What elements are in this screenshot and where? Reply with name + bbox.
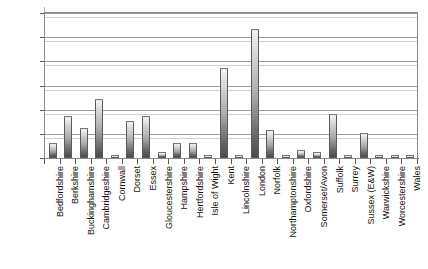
bar-slot [325, 13, 341, 158]
bar-slot [45, 13, 61, 158]
x-axis-tick-label: Northamptonshire [289, 166, 298, 238]
bar-chart: 0102030405060 BedfordshireBerkshireBucki… [0, 0, 428, 269]
bar-slot [185, 13, 201, 158]
bar-slot [340, 13, 356, 158]
x-axis-tick-mark [324, 159, 325, 164]
y-axis-tick-mark [40, 86, 44, 87]
x-axis-tick-mark [370, 159, 371, 164]
x-axis-tick-mark [417, 159, 418, 164]
x-axis-tick-label: Cambridgeshire [102, 166, 111, 230]
bar-slot [216, 13, 232, 158]
x-axis-tick-label: Wales [413, 166, 422, 191]
bar-slot [200, 13, 216, 158]
bar [329, 115, 337, 159]
x-axis-tick-mark [386, 159, 387, 164]
x-axis-tick-label: Sussex (E&W) [367, 166, 376, 225]
x-axis-tick-mark [184, 159, 185, 164]
x-axis-tick-mark [106, 159, 107, 164]
x-axis-tick-mark [91, 159, 92, 164]
bar-slot [61, 13, 77, 158]
bar-slot [247, 13, 263, 158]
bar-slot [387, 13, 403, 158]
bar-slot [371, 13, 387, 158]
x-axis-labels: BedfordshireBerkshireBuckinghamshireCamb… [0, 166, 428, 269]
bar [95, 100, 103, 158]
bar-slot [402, 13, 418, 158]
bar-series [45, 13, 417, 158]
x-axis-tick-mark [262, 159, 263, 164]
bar-slot [138, 13, 154, 158]
x-axis-tick-label: Hertfordshire [196, 166, 205, 218]
bar [49, 144, 57, 159]
x-axis-tick-mark [137, 159, 138, 164]
y-axis-tick-mark [40, 13, 44, 14]
x-axis-tick-label: Suffolk [336, 166, 345, 193]
bar [64, 117, 72, 158]
x-axis-tick-label: Berkshire [71, 166, 80, 204]
x-axis-tick-label: Hampshire [180, 166, 189, 210]
bar-slot [356, 13, 372, 158]
x-axis-tick-label: London [258, 166, 267, 196]
bar [111, 156, 119, 158]
y-axis-tick-mark [40, 37, 44, 38]
x-axis-tick-mark [215, 159, 216, 164]
x-axis-tick-mark [168, 159, 169, 164]
x-axis-tick-label: Lincolnshire [242, 166, 251, 214]
bar [266, 131, 274, 158]
bar-slot [123, 13, 139, 158]
bar-slot [92, 13, 108, 158]
x-axis-tick-label: Norfolk [273, 166, 282, 195]
x-axis-tick-label: Isle of Wight [211, 166, 220, 216]
bar [220, 69, 228, 158]
bar-slot [107, 13, 123, 158]
x-axis-tick-mark [75, 159, 76, 164]
x-axis-tick-mark [153, 159, 154, 164]
x-axis-tick-label: Cornwall [118, 166, 127, 201]
x-axis-tick-label: Dorset [133, 166, 142, 193]
bar [344, 156, 352, 158]
bar [158, 153, 166, 158]
x-axis-tick-label: Kent [227, 166, 236, 185]
x-axis-tick-mark [339, 159, 340, 164]
bar [189, 144, 197, 159]
x-axis-tick-mark [277, 159, 278, 164]
x-axis-tick-mark [44, 159, 45, 164]
x-axis-tick-mark [308, 159, 309, 164]
bar [204, 156, 212, 158]
bar [406, 156, 414, 158]
bar-slot [309, 13, 325, 158]
bar [142, 117, 150, 158]
x-axis-tick-mark [231, 159, 232, 164]
y-axis-tick-mark [40, 110, 44, 111]
bar [282, 156, 290, 158]
y-axis-tick-mark [40, 61, 44, 62]
x-axis-tick-label: Worcestershire [398, 166, 407, 226]
x-axis-tick-mark [122, 159, 123, 164]
x-axis-tick-label: Oxfordshire [304, 166, 313, 213]
bar-slot [263, 13, 279, 158]
bar [173, 144, 181, 159]
bar-slot [76, 13, 92, 158]
bar-slot [169, 13, 185, 158]
x-axis-tick-mark [293, 159, 294, 164]
x-axis-tick-label: Gloucestershire [165, 166, 174, 229]
bar [235, 156, 243, 158]
bar [297, 151, 305, 158]
x-axis-tick-label: Warwickshire [382, 166, 391, 219]
bar-slot [154, 13, 170, 158]
bar [391, 156, 399, 158]
x-axis-tick-label: Essex [149, 166, 158, 191]
x-axis-tick-label: Buckinghamshire [87, 166, 96, 235]
bar [80, 129, 88, 158]
x-axis-tick-label: Bedfordshire [56, 166, 65, 217]
x-axis-tick-mark [246, 159, 247, 164]
bar-slot [232, 13, 248, 158]
bar [360, 134, 368, 158]
x-axis-tick-mark [355, 159, 356, 164]
x-axis-tick-mark [199, 159, 200, 164]
bar [313, 153, 321, 158]
bar-slot [278, 13, 294, 158]
bar [126, 122, 134, 158]
bar-slot [294, 13, 310, 158]
bar [251, 30, 259, 158]
